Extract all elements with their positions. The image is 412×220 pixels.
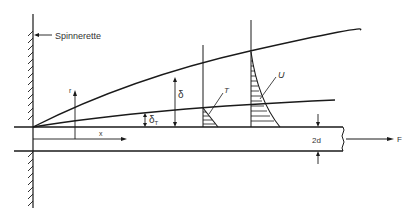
x-axis-label: x bbox=[99, 130, 103, 137]
spinnerette-wall bbox=[28, 14, 33, 208]
r-axis-arrow bbox=[73, 90, 77, 139]
diameter-label: 2d bbox=[312, 136, 321, 145]
thermal-boundary-layer-curve bbox=[33, 100, 335, 127]
delta-label: δ bbox=[178, 89, 184, 100]
velocity-profile bbox=[251, 20, 280, 127]
spinning-boundary-layer-diagram: Spinnerette r x δ δT bbox=[0, 0, 412, 220]
force-label: F bbox=[397, 135, 402, 144]
r-axis-label: r bbox=[69, 87, 72, 94]
x-axis-arrow bbox=[33, 137, 127, 141]
delta-t-label: δT bbox=[149, 114, 159, 126]
velocity-boundary-layer-curve bbox=[33, 29, 361, 127]
velocity-profile-label: U bbox=[278, 70, 285, 80]
delta-t-dimension-arrow bbox=[143, 113, 147, 127]
spinnerette-pointer-arrow bbox=[34, 33, 52, 37]
force-arrow bbox=[346, 137, 394, 141]
delta-dimension-arrow bbox=[173, 77, 177, 127]
temperature-profile bbox=[203, 45, 223, 127]
spinnerette-label: Spinnerette bbox=[55, 31, 101, 41]
temperature-profile-label: T bbox=[224, 86, 230, 95]
